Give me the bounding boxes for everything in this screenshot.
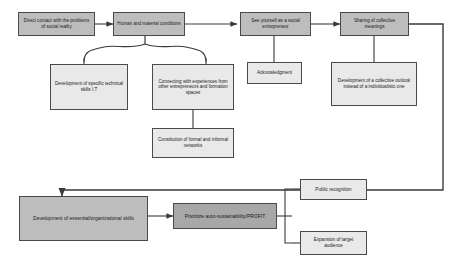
- node-formal-informal-networks[interactable]: Constitution of formal and informal netw…: [152, 128, 234, 158]
- node-acknowledgment[interactable]: Acknowledgment: [247, 62, 302, 84]
- node-human-material-conditions[interactable]: Human and material conditions: [113, 12, 185, 36]
- node-direct-contact[interactable]: Direct contact with the problems of soci…: [18, 12, 95, 36]
- node-prioritize-auto-sustainability[interactable]: Prioritize auto-sustainability/PROFIT: [173, 203, 277, 229]
- node-sharing-collective-meanings[interactable]: Sharing of collective meanings: [340, 12, 409, 36]
- node-expansion-target-audience[interactable]: Expansion of target audience: [300, 231, 367, 255]
- node-organizational-skills[interactable]: Development of essential/organizational …: [19, 196, 148, 241]
- flowchart-canvas: Direct contact with the problems of soci…: [0, 0, 461, 264]
- node-see-yourself-social-entrepreneur[interactable]: See yourself as a social entrepreneur: [240, 12, 311, 36]
- node-public-recognition[interactable]: Public recognition: [300, 179, 367, 200]
- node-collective-outlook[interactable]: Development of a collective outlook inst…: [331, 62, 417, 106]
- node-technical-skills[interactable]: Development of specific technical skills…: [50, 64, 128, 110]
- edge-sharing-to-org-skills: [62, 24, 443, 196]
- node-connecting-experiences[interactable]: Connecting with experiences from other e…: [152, 64, 234, 110]
- edge-brace-curve: [84, 44, 206, 62]
